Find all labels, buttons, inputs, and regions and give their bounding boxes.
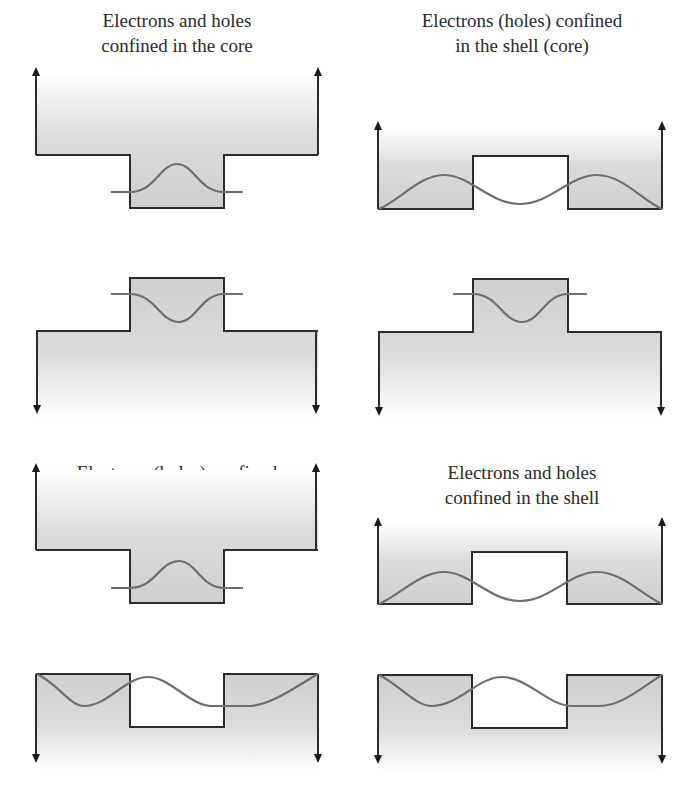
arrow-up-icon — [32, 67, 40, 76]
arrow-up-icon — [658, 517, 666, 526]
arrow-up-icon — [312, 463, 320, 472]
arrow-up-icon — [32, 463, 40, 472]
panel-a-conduction-band — [32, 67, 322, 208]
panel-c-valence-band — [32, 674, 322, 770]
panel-c-conduction-band — [32, 463, 320, 603]
arrow-up-icon — [314, 67, 322, 76]
arrow-up-icon — [658, 121, 666, 130]
panel-d-conduction-band — [374, 517, 666, 604]
panel-d-valence-band — [374, 675, 666, 772]
panel-b-valence-band — [375, 279, 665, 420]
arrow-up-icon — [374, 121, 382, 130]
panel-b-conduction-band — [374, 121, 666, 209]
panel-a-valence-band — [33, 278, 320, 420]
band-diagram-figure — [0, 0, 691, 790]
arrow-up-icon — [374, 517, 382, 526]
